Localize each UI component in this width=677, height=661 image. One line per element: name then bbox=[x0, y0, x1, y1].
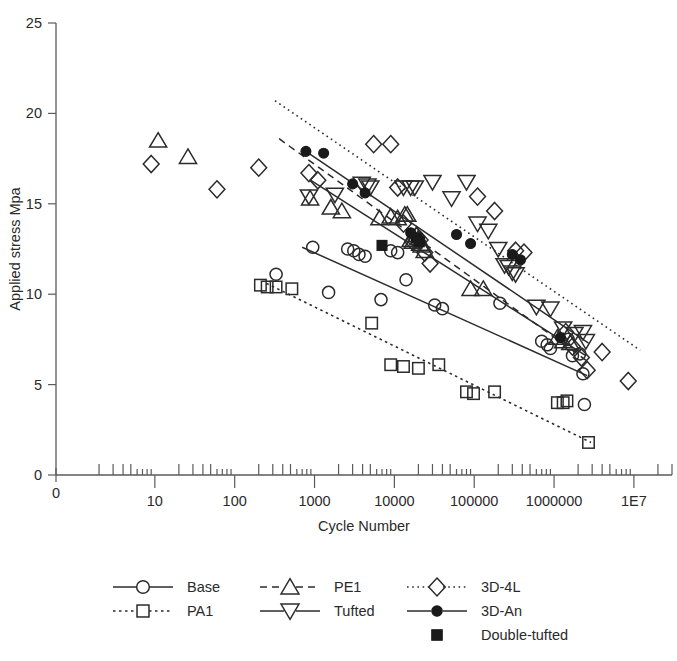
x-tick-label: 10 bbox=[147, 493, 163, 509]
x-tick-label: 10000 bbox=[374, 493, 414, 509]
data-point bbox=[319, 148, 329, 158]
data-point bbox=[516, 255, 526, 265]
x-tick-label: 1000 bbox=[298, 493, 330, 509]
legend-label: PE1 bbox=[334, 579, 361, 595]
chart-background bbox=[0, 0, 677, 661]
x-tick-label-origin: 0 bbox=[52, 485, 60, 501]
y-tick-label: 25 bbox=[26, 15, 42, 31]
legend-marker-filled-square bbox=[432, 630, 442, 640]
y-tick-label: 20 bbox=[26, 105, 42, 121]
legend-marker-filled-circle bbox=[432, 606, 442, 616]
y-axis-title: Applied stress Mpa bbox=[7, 186, 23, 310]
data-point bbox=[466, 239, 476, 249]
data-point bbox=[452, 230, 462, 240]
y-tick-label: 10 bbox=[26, 286, 42, 302]
chart-figure: 0510152025 01010010001000010000010000001… bbox=[0, 0, 677, 661]
data-point bbox=[377, 240, 387, 250]
data-point bbox=[348, 179, 358, 189]
legend-label: Double-tufted bbox=[481, 627, 568, 643]
x-tick-label: 1000000 bbox=[526, 493, 582, 509]
y-tick-label: 0 bbox=[34, 467, 42, 483]
data-point bbox=[301, 146, 311, 156]
legend-label: 3D-4L bbox=[481, 579, 521, 595]
legend-label: Tufted bbox=[334, 603, 375, 619]
fatigue-scatter-chart: 0510152025 01010010001000010000010000001… bbox=[0, 0, 677, 661]
x-axis-title: Cycle Number bbox=[318, 518, 410, 534]
data-point bbox=[360, 188, 370, 198]
legend-label: 3D-An bbox=[481, 603, 522, 619]
data-point bbox=[555, 333, 565, 343]
y-tick-label: 15 bbox=[26, 196, 42, 212]
x-tick-label: 1E7 bbox=[621, 493, 647, 509]
x-tick-label: 100 bbox=[223, 493, 247, 509]
legend-label: Base bbox=[187, 579, 220, 595]
y-tick-label: 5 bbox=[34, 377, 42, 393]
data-point bbox=[414, 237, 424, 247]
x-tick-label: 100000 bbox=[450, 493, 498, 509]
legend-label: PA1 bbox=[187, 603, 213, 619]
